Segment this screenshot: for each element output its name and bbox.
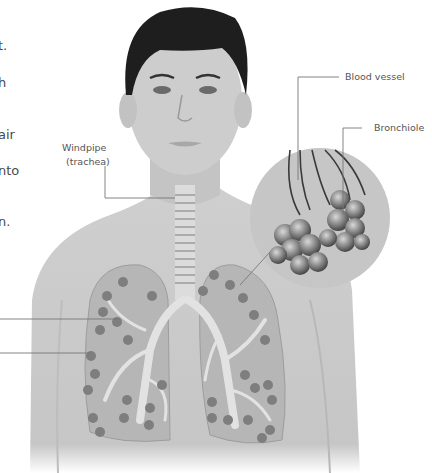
bronchiole-label: Bronchiole [374,121,424,134]
windpipe-label-line1: Windpipe [62,141,106,154]
blood-vessel-label: Blood vessel [345,70,405,83]
text-fragment: t. [0,38,7,53]
text-fragment: h [0,75,6,90]
text-fragment: nto [0,163,19,178]
windpipe-label-line2: (trachea) [66,155,110,168]
text-fragment: n. [0,214,10,229]
trachea [175,185,195,300]
head [119,7,252,175]
text-fragment: air [0,127,15,142]
magnified-alveoli [250,148,390,288]
